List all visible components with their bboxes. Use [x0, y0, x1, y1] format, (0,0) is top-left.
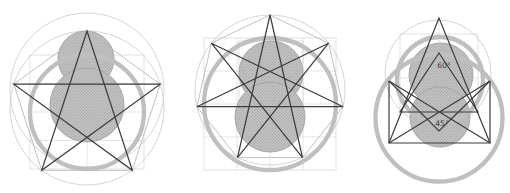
angle-label: 60° — [437, 61, 451, 70]
angle-label: 45° — [435, 119, 449, 128]
diagram-canvas: 60°45° — [0, 0, 510, 193]
angle-construction-group: 60°45° — [376, 18, 503, 182]
heptagram-construction-group — [195, 15, 345, 170]
diagram-strip: 60°45° — [0, 0, 510, 193]
pentagram-construction-group — [10, 13, 164, 185]
